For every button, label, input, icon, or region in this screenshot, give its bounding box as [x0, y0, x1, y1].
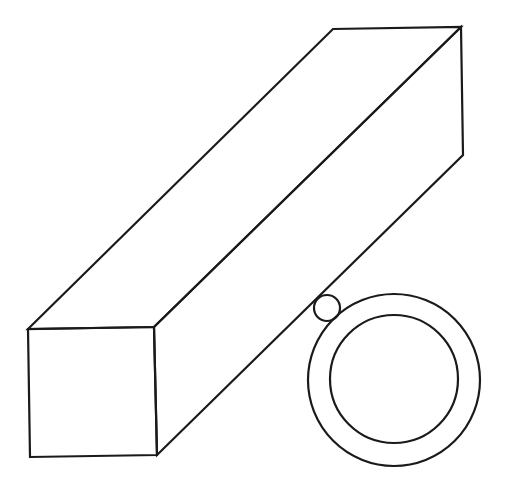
ring [308, 294, 480, 466]
beam-front-face [28, 327, 157, 457]
ring-inner-circle [330, 315, 458, 443]
ring-outer-circle [308, 294, 480, 466]
diagram-canvas [0, 0, 507, 496]
diagram-svg [0, 0, 507, 496]
beam-top-face [28, 27, 461, 329]
beam [28, 27, 463, 457]
